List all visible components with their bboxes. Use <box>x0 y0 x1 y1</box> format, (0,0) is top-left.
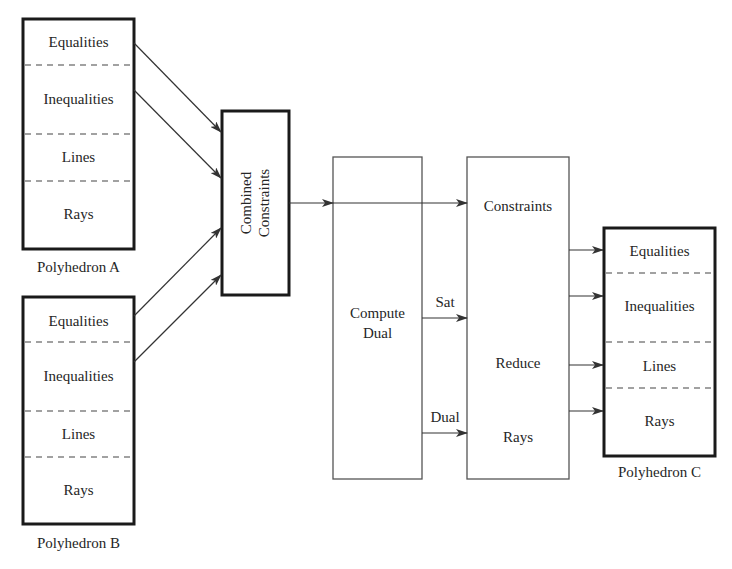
poly-a-inequalities: Inequalities <box>23 91 134 108</box>
poly-b-caption: Polyhedron B <box>18 535 139 552</box>
compute-line1: Compute <box>333 303 422 323</box>
reduce-constraints-label: Constraints <box>467 198 569 215</box>
combined-line2: Constraints <box>255 153 273 253</box>
poly-c-lines: Lines <box>604 358 715 375</box>
input-arrows <box>134 43 221 362</box>
compute-dual-label: Compute Dual <box>333 303 422 343</box>
poly-c-caption: Polyhedron C <box>599 464 720 481</box>
dual-label: Dual <box>422 409 468 426</box>
combined-constraints-label: Combined Constraints <box>237 153 273 253</box>
sat-label: Sat <box>425 294 465 311</box>
combined-line1: Combined <box>237 153 255 253</box>
compute-line2: Dual <box>333 323 422 343</box>
poly-a-lines: Lines <box>23 149 134 166</box>
reduce-label: Reduce <box>467 355 569 372</box>
poly-b-equalities: Equalities <box>23 313 134 330</box>
output-arrows <box>569 250 603 411</box>
poly-b-rays: Rays <box>23 482 134 499</box>
poly-b-lines: Lines <box>23 426 134 443</box>
poly-a-rays: Rays <box>23 206 134 223</box>
poly-a-equalities: Equalities <box>23 34 134 51</box>
poly-b-inequalities: Inequalities <box>23 368 134 385</box>
poly-a-caption: Polyhedron A <box>18 259 139 276</box>
reduce-rays-label: Rays <box>467 429 569 446</box>
poly-c-rays: Rays <box>604 413 715 430</box>
poly-c-equalities: Equalities <box>604 243 715 260</box>
poly-c-inequalities: Inequalities <box>604 298 715 315</box>
